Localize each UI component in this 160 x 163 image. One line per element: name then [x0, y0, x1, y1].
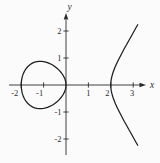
x-tick-label: -2 [11, 88, 18, 98]
y-tick-label: -1 [54, 107, 61, 117]
y-axis-arrow-icon [64, 13, 69, 20]
x-tick-label: -1 [36, 88, 43, 98]
elliptic-curve-figure: -2-1123 21-1-2 x y [0, 0, 160, 163]
x-axis-arrow-icon [140, 83, 147, 88]
x-tick-label: 2 [105, 88, 109, 98]
y-tick-label: -2 [54, 134, 61, 144]
x-tick-label: 3 [130, 88, 134, 98]
y-axis-label: y [67, 2, 73, 12]
x-axis-label: x [149, 80, 155, 90]
y-tick-label: 2 [57, 26, 61, 36]
x-tick-label: 1 [86, 88, 90, 98]
x-tick-labels: -2-1123 [11, 88, 134, 98]
axes [9, 13, 146, 155]
plot-canvas: -2-1123 21-1-2 x y [0, 0, 160, 163]
y-tick-label: 1 [57, 53, 61, 63]
